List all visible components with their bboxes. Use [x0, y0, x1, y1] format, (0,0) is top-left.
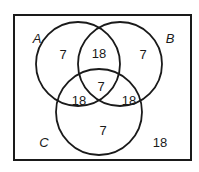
region-outside: 18: [153, 135, 167, 150]
region-bc-only: 18: [122, 93, 136, 108]
region-b-only: 7: [139, 47, 146, 62]
venn-diagram: A B C 7 18 7 7 18 18 7 18: [0, 0, 199, 172]
region-abc: 7: [97, 79, 104, 94]
region-c-only: 7: [99, 123, 106, 138]
set-label-c: C: [39, 135, 49, 150]
set-label-a: A: [32, 31, 42, 46]
region-a-only: 7: [59, 47, 66, 62]
region-ab-only: 18: [92, 46, 106, 61]
set-label-b: B: [166, 31, 175, 46]
region-ac-only: 18: [72, 93, 86, 108]
